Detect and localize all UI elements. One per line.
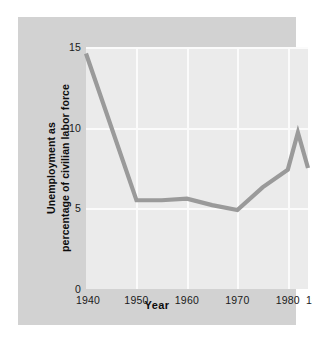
plot-area: 15 10 5 0 1940 1950 1960 1970 1980 1984 — [86, 47, 308, 289]
unemployment-rate-polyline — [86, 53, 308, 210]
data-line-series — [86, 47, 308, 289]
x-axis-title: Year — [18, 299, 296, 311]
y-tick-label-5: 5 — [75, 202, 86, 214]
y-axis-title-line-1: Unemployment as — [45, 84, 59, 252]
unemployment-line-chart-figure: Unemployment as percentage of civilian l… — [0, 0, 312, 342]
y-axis-title: Unemployment as percentage of civilian l… — [42, 47, 76, 289]
y-tick-label-10: 10 — [69, 122, 86, 134]
chart-panel: Unemployment as percentage of civilian l… — [18, 17, 296, 325]
y-axis-title-line-2: percentage of civilian labor force — [59, 84, 73, 252]
y-tick-label-15: 15 — [69, 41, 86, 53]
x-tick-label-1984: 1984 — [306, 294, 312, 306]
